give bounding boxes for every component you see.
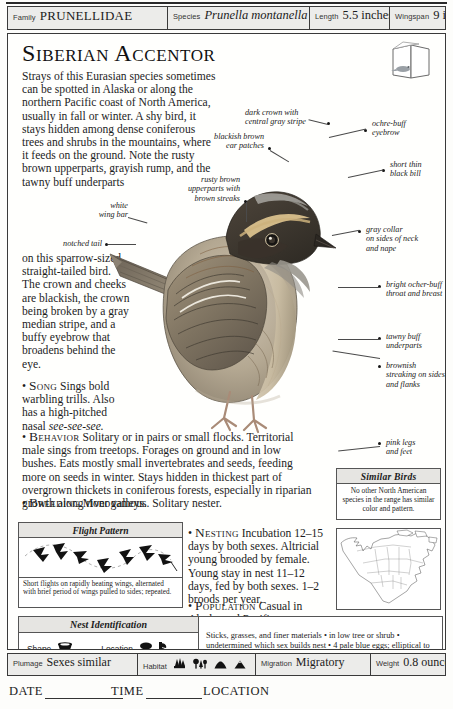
footer-time-line[interactable] [146,688,202,699]
header-value-species: Prunella montanella [204,8,307,23]
conifer-forest-icon [173,655,186,673]
habitat-icons [171,655,246,673]
breeding-block: • Breeding Monogamous. Solitary nester. [22,496,322,510]
nesting-block: • Nesting Incubation 12–15 days by both … [188,526,328,606]
header-label-family: Family [13,13,36,22]
header-field-species: Species Prunella montanella [168,7,310,29]
callout-brownish-streaking: brownish streaking on sides and flanks [386,361,446,389]
similar-birds-panel: Similar Birds No other North American sp… [336,468,441,520]
footer-date-label: DATE [9,684,43,699]
bullet-population: • [188,600,195,613]
bullet-nesting: • [188,527,195,540]
footer-location-label: LOCATION [203,684,270,699]
callout-throat-breast: bright ocher-buff throat and breast [386,280,446,299]
mixed-woodland-icon [193,655,207,673]
taxonomy-header-strip: Family PRUNELLIDAE Species Prunella mont… [7,6,446,30]
leader-short-bill [348,170,383,178]
attribute-plumage: Plumage Sexes similar [8,654,138,675]
field-guide-page: Family PRUNELLIDAE Species Prunella mont… [0,0,453,709]
behavior-heading: Behavior [29,429,80,444]
nesting-heading: Nesting [195,525,239,540]
nest-shape-label: Shape [27,644,51,651]
header-value-wingspan: 9 inches [433,8,445,23]
flight-pattern-diagram [19,538,182,578]
footer-time-field[interactable]: TIME [111,684,202,699]
north-america-map-icon [337,529,440,609]
top-rule [6,2,447,4]
attribute-migration: Migration Migratory [256,654,371,675]
callout-tawny-underparts: tawny buff underparts [386,332,446,351]
cup-nest-icon [57,642,73,651]
leader-rusty-upperparts [246,202,247,222]
bullet-song: • [22,380,29,393]
population-heading: Population [195,598,256,613]
hill-icon [214,655,227,673]
callout-rusty-upperparts: rusty brown upperparts with brown streak… [162,175,240,203]
header-field-wingspan: Wingspan 9 inches [390,7,445,29]
callout-short-bill: short thin black bill [390,160,446,179]
attribute-value-migration: Migratory [296,655,345,670]
range-map-panel [336,528,441,610]
callout-white-wing-bar: white wing bar [72,201,128,220]
footer-time-label: TIME [111,684,144,699]
attribute-label-weight: Weight [376,659,399,668]
callout-notched-tail: notched tail [36,239,102,248]
nest-location-label: Location [101,644,133,651]
header-field-length: Length 5.5 inches [310,7,390,29]
nest-identification-icons: Shape Location [19,633,198,650]
footer-location-field[interactable]: LOCATION [203,684,272,699]
similar-birds-text: No other North American species in the r… [337,484,440,513]
attribute-weight: Weight 0.8 ounce [371,654,445,675]
species-account-panel: Siberian Accentor Strays of this Eurasia… [7,33,446,650]
callout-gray-collar: gray collar on sides of neck and nape [366,225,446,253]
song-heading: Song [29,378,57,393]
breeding-heading: Breeding [29,495,80,510]
page-title: Siberian Accentor [22,40,216,67]
attribute-value-plumage: Sexes similar [47,655,111,670]
bullet-behavior: • [22,431,29,444]
record-footer: DATE TIME LOCATION [7,684,446,704]
header-label-wingspan: Wingspan [395,12,429,21]
callout-ochre-eyebrow: ochre-buff eyebrow [372,119,442,138]
mountain-icon [234,655,246,673]
flight-pattern-panel: Flight Pattern Short flight [18,522,183,608]
book-icon [389,40,435,82]
callout-pink-legs: pink legs and feet [386,438,446,457]
flight-pattern-caption: Short flights on rapidly beating wings, … [19,578,182,597]
attribute-label-habitat: Habitat [143,662,167,671]
callout-dot-pink-legs [378,442,381,445]
header-value-length: 5.5 inches [343,8,390,23]
attribute-strip: Plumage Sexes similar Habitat Mi [7,653,446,676]
callout-ear-patches: blackish brown ear patches [186,132,264,151]
leader-brownish-streaking [333,350,381,358]
nest-identification-left: Nest Identification Shape Location [19,617,199,650]
header-value-family: PRUNELLIDAE [40,8,133,24]
attribute-value-weight: 0.8 ounce [403,655,445,670]
tree-shrub-icon [139,641,169,650]
similar-birds-title: Similar Birds [337,469,440,484]
leader-pink-legs [338,446,380,451]
bullet-breeding: • [22,497,29,510]
callout-dot-brownish-streaking [378,365,381,368]
leader-throat-breast [338,287,380,288]
nest-identification-panel: Nest Identification Shape Location [18,616,443,650]
leader-gray-collar [332,230,360,236]
header-label-species: Species [173,12,200,21]
leader-tawny-underparts [338,339,380,340]
attribute-habitat: Habitat [138,654,256,675]
leader-notched-tail [108,244,136,245]
attribute-label-migration: Migration [261,659,292,668]
header-field-family: Family PRUNELLIDAE [8,7,168,29]
breeding-text: Monogamous. Solitary nester. [83,497,222,510]
footer-date-field[interactable]: DATE [9,684,123,699]
header-label-length: Length [315,12,339,21]
leader-ochre-eyebrow [329,128,366,138]
attribute-label-plumage: Plumage [13,659,43,668]
nest-identification-title: Nest Identification [19,617,198,633]
nest-identification-text: Sticks, grasses, and finer materials • i… [199,617,442,650]
flight-pattern-title: Flight Pattern [19,523,182,538]
